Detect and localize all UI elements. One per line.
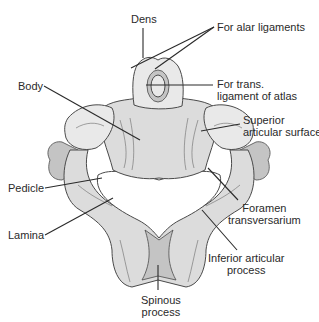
label-dens: Dens <box>131 13 157 25</box>
label-foramen-transversarium: Foramen transversarium <box>228 202 301 226</box>
label-spinous-line2: process <box>141 306 181 318</box>
diagram-stage: Dens For alar ligaments For trans. ligam… <box>0 0 319 322</box>
label-inferior-line1: Inferior articular <box>208 252 284 264</box>
label-lamina: Lamina <box>8 229 44 241</box>
label-trans-ligament-line1: For trans. <box>217 78 297 90</box>
label-trans-ligament-line2: ligament of atlas <box>217 90 297 102</box>
vertebral-body <box>100 98 219 179</box>
label-inferior-articular-process: Inferior articular process <box>208 252 284 276</box>
label-superior-line2: articular surface <box>243 126 319 138</box>
label-spinous-line1: Spinous <box>141 294 181 306</box>
dens-facet-inner <box>151 75 165 97</box>
label-superior-line1: Superior <box>243 114 319 126</box>
label-spinous-process: Spinous process <box>141 294 181 318</box>
label-superior-articular-surface: Superior articular surface <box>243 114 319 138</box>
label-body: Body <box>18 80 43 92</box>
label-pedicle: Pedicle <box>8 182 44 194</box>
label-inferior-line2: process <box>208 264 284 276</box>
label-foramen-line1: Foramen <box>228 202 301 214</box>
label-foramen-line2: transversarium <box>228 214 301 226</box>
label-alar-ligaments: For alar ligaments <box>217 21 305 33</box>
label-trans-ligament: For trans. ligament of atlas <box>217 78 297 102</box>
leader-alar-2 <box>155 27 214 69</box>
